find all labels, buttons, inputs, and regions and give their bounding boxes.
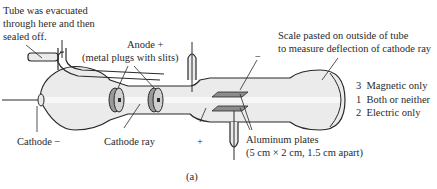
label-plate-plus: + [197, 135, 203, 148]
label-evacuated-line2: through here and then [3, 17, 95, 30]
label-cathode: Cathode − [17, 135, 61, 148]
label-anode: Anode + (metal plugs with slits) [82, 38, 179, 64]
label-aluminum-line2: (5 cm × 2 cm, 1.5 cm apart) [246, 146, 363, 159]
label-anode-line1: Anode + [82, 38, 179, 51]
label-scale: Scale pasted on outside of tube to measu… [278, 29, 431, 55]
deflection-magnetic: 3 Magnetic only [356, 79, 430, 93]
label-plate-minus: − [255, 50, 261, 63]
plate-upper [212, 92, 248, 97]
label-aluminum: Aluminum plates (5 cm × 2 cm, 1.5 cm apa… [246, 133, 363, 159]
plate-lower [212, 106, 248, 111]
label-evacuated-line1: Tube was evacuated [3, 4, 95, 17]
deflection-both: 1 Both or neither [356, 93, 430, 107]
port-stub [28, 53, 58, 61]
label-cathode-ray: Cathode ray [104, 135, 155, 148]
deflection-electric: 2 Electric only [356, 106, 430, 120]
label-aluminum-line1: Aluminum plates [246, 133, 363, 146]
anode-plug-1 [109, 88, 124, 112]
label-scale-line1: Scale pasted on outside of tube [278, 29, 431, 42]
anode-plug-2 [148, 88, 163, 112]
label-scale-line2: to measure deflection of cathode ray [278, 42, 431, 55]
label-deflection-list: 3 Magnetic only 1 Both or neither 2 Elec… [356, 79, 430, 120]
figure-caption: (a) [186, 170, 198, 183]
label-anode-line2: (metal plugs with slits) [82, 51, 179, 64]
cathode-electrode [38, 94, 44, 106]
